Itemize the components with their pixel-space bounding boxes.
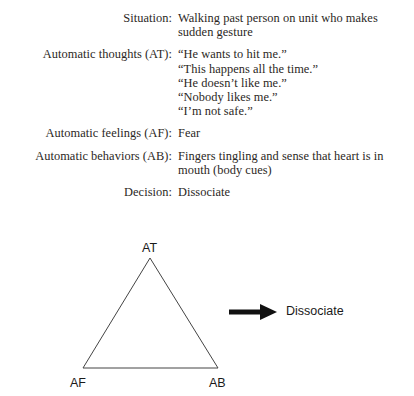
row-value-situation: Walking past person on unit who makes su… (172, 11, 400, 39)
table-row-automatic-thoughts: Automatic thoughts (AT): “He wants to hi… (0, 47, 414, 118)
arrow-shaft (229, 310, 265, 315)
right-arrow-icon (229, 304, 277, 320)
at-af-ab-triangle-diagram: AT AF AB Dissociate (0, 230, 414, 396)
table-row-automatic-feelings: Automatic feelings (AF): Fear (0, 126, 414, 140)
triangle-outline (83, 258, 218, 368)
value-line: “He doesn’t like me.” (178, 76, 400, 90)
value-line: Dissociate (178, 185, 400, 199)
vertex-label-ab: AB (209, 376, 226, 390)
value-line: “I’m not safe.” (178, 104, 400, 118)
arrow-head (260, 304, 277, 320)
table-row-situation: Situation: Walking past person on unit w… (0, 11, 414, 39)
row-label-automatic-thoughts: Automatic thoughts (AT): (0, 47, 172, 61)
vertex-label-at: AT (142, 241, 157, 255)
row-value-decision: Dissociate (172, 185, 400, 199)
value-line: “He wants to hit me.” (178, 47, 400, 61)
table-row-automatic-behaviors: Automatic behaviors (AB): Fingers tingli… (0, 149, 414, 177)
row-label-situation: Situation: (0, 11, 172, 25)
row-value-automatic-feelings: Fear (172, 126, 400, 140)
case-formulation-table: Situation: Walking past person on unit w… (0, 11, 414, 207)
value-line: Fingers tingling and sense that heart is… (178, 149, 400, 177)
vertex-label-af: AF (70, 376, 86, 390)
row-label-automatic-behaviors: Automatic behaviors (AB): (0, 149, 172, 163)
row-label-automatic-feelings: Automatic feelings (AF): (0, 126, 172, 140)
row-value-automatic-thoughts: “He wants to hit me.” “This happens all … (172, 47, 400, 118)
row-label-decision: Decision: (0, 185, 172, 199)
table-row-decision: Decision: Dissociate (0, 185, 414, 199)
value-line: Fear (178, 126, 400, 140)
arrow-target-label: Dissociate (286, 304, 344, 318)
value-line: “Nobody likes me.” (178, 90, 400, 104)
row-value-automatic-behaviors: Fingers tingling and sense that heart is… (172, 149, 400, 177)
triangle-svg (0, 230, 414, 396)
value-line: Walking past person on unit who makes su… (178, 11, 400, 39)
value-line: “This happens all the time.” (178, 62, 400, 76)
